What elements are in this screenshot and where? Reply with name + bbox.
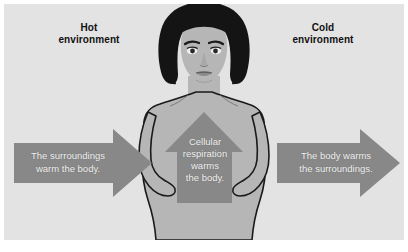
left-arrow-label: The surroundings warm the body. bbox=[16, 150, 120, 175]
center-arrow-label: Cellular respiration warms the body. bbox=[168, 136, 242, 184]
diagram-figure: Hot environment Cold environment The sur… bbox=[0, 0, 408, 252]
label-cold-environment: Cold environment bbox=[268, 22, 378, 46]
right-arrow-label: The body warms the surroundings. bbox=[284, 150, 388, 175]
pupil-right bbox=[213, 49, 218, 54]
pupil-left bbox=[190, 49, 195, 54]
label-hot-environment: Hot environment bbox=[34, 22, 144, 46]
